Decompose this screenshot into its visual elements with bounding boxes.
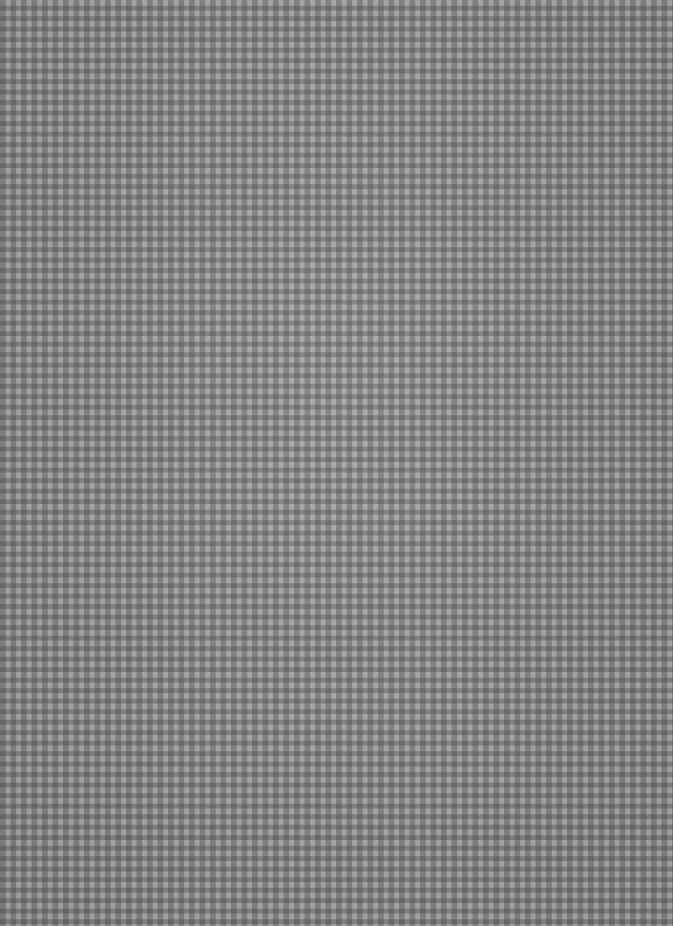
lighting-overlay <box>0 0 673 926</box>
